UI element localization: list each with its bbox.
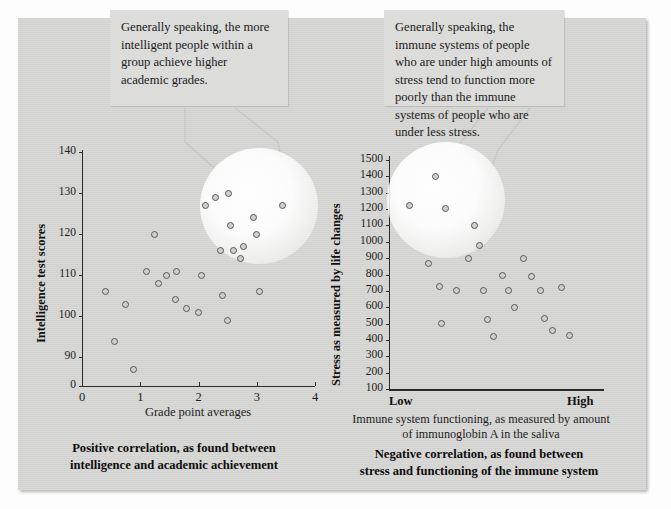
- left-chart-x-axis-label: Grade point averages: [70, 405, 326, 420]
- right-chart-data-point: [499, 272, 506, 279]
- figure-page: Generally speaking, the more intelligent…: [0, 0, 671, 509]
- right-chart-y-tick-label: 400: [343, 332, 383, 344]
- right-chart-data-point: [453, 287, 460, 294]
- left-chart-y-tick-mark: [79, 193, 83, 194]
- left-chart-data-point: [111, 338, 118, 345]
- left-chart-data-point: [253, 231, 260, 238]
- right-chart-data-point: [541, 315, 548, 322]
- right-chart-data-point: [558, 284, 565, 291]
- left-chart-caption: Positive correlation, as found between i…: [58, 440, 290, 473]
- left-chart-data-point: [219, 292, 226, 299]
- left-chart-y-axis: [82, 150, 83, 387]
- right-chart-y-tick-mark: [386, 307, 390, 308]
- right-chart-y-tick-mark: [386, 389, 390, 390]
- right-chart-data-point: [436, 283, 443, 290]
- right-chart-x-axis: [389, 389, 604, 391]
- right-chart-y-axis-label: Stress as measured by life changes: [329, 146, 344, 386]
- right-chart-y-tick-mark: [386, 258, 390, 259]
- left-chart-data-point: [225, 190, 232, 197]
- left-chart-y-tick-label: 140: [40, 144, 76, 156]
- left-chart-y-tick-mark: [79, 316, 83, 317]
- right-chart-y-tick-mark: [386, 275, 390, 276]
- left-chart-data-point: [122, 301, 129, 308]
- right-chart-y-tick-label: 600: [343, 299, 383, 311]
- right-chart-data-point: [490, 333, 497, 340]
- left-chart-data-point: [172, 296, 179, 303]
- left-chart-data-point: [224, 317, 231, 324]
- right-chart-data-point: [465, 255, 472, 262]
- right-chart-data-point: [528, 273, 535, 280]
- right-chart-y-tick-mark: [386, 340, 390, 341]
- right-chart-y-tick-label: 500: [343, 316, 383, 328]
- left-chart-data-point: [151, 231, 158, 238]
- right-chart-y-tick-mark: [386, 373, 390, 374]
- left-chart-data-point: [217, 247, 224, 254]
- right-chart-y-tick-mark: [386, 176, 390, 177]
- right-chart-data-point: [511, 304, 518, 311]
- left-chart-data-point: [198, 272, 205, 279]
- left-chart-data-point: [143, 268, 150, 275]
- callout-right: Generally speaking, the immune systems o…: [384, 10, 564, 106]
- left-chart-x-axis: [82, 386, 315, 387]
- left-chart-data-point: [130, 366, 137, 373]
- left-chart-data-point: [256, 288, 263, 295]
- left-chart-x-tick-label: 2: [187, 390, 211, 405]
- left-chart-data-point: [155, 280, 162, 287]
- right-chart-y-tick-mark: [386, 160, 390, 161]
- right-chart-data-point: [520, 255, 527, 262]
- right-chart-y-tick-label: 1500: [343, 152, 383, 164]
- left-chart-x-tick-label: 0: [70, 390, 94, 405]
- left-chart-y-tick-label: 100: [40, 308, 76, 320]
- left-chart-y-tick-label: 90: [40, 349, 76, 361]
- left-chart-y-tick-mark: [79, 234, 83, 235]
- right-chart-y-tick-mark: [386, 291, 390, 292]
- left-chart-data-point: [202, 202, 209, 209]
- left-chart-y-tick-label: 0: [40, 378, 76, 390]
- right-chart-x-tick-high: High: [567, 394, 593, 409]
- right-chart-y-tick-label: 100: [343, 381, 383, 393]
- left-chart-y-tick-label: 110: [40, 267, 76, 279]
- right-chart-y-tick-label: 700: [343, 283, 383, 295]
- left-chart-y-tick-mark: [79, 386, 83, 387]
- left-chart-x-tick-mark: [257, 382, 258, 386]
- left-chart-x-tick-mark: [199, 382, 200, 386]
- left-chart-y-tick-mark: [79, 275, 83, 276]
- left-chart-x-tick-mark: [140, 382, 141, 386]
- right-chart-data-point: [484, 316, 491, 323]
- right-chart-y-tick-label: 1400: [343, 168, 383, 180]
- left-chart-data-point: [102, 288, 109, 295]
- right-scatter-chart: Stress as measured by life changes 10020…: [315, 120, 625, 410]
- right-chart-data-point: [432, 173, 439, 180]
- right-chart-data-point: [566, 332, 573, 339]
- right-chart-y-tick-label: 1000: [343, 234, 383, 246]
- right-chart-data-point: [537, 287, 544, 294]
- left-chart-data-point: [183, 305, 190, 312]
- right-chart-x-tick-low: Low: [389, 394, 413, 409]
- right-chart-x-axis-label: Immune system functioning, as measured b…: [351, 412, 611, 442]
- right-chart-highlight: [387, 142, 505, 258]
- right-chart-y-tick-mark: [386, 356, 390, 357]
- right-chart-data-point: [438, 320, 445, 327]
- right-chart-y-tick-label: 1300: [343, 185, 383, 197]
- left-chart-data-point: [163, 272, 170, 279]
- left-chart-data-point: [230, 247, 237, 254]
- right-chart-data-point: [480, 287, 487, 294]
- right-chart-data-point: [442, 205, 449, 212]
- right-chart-y-tick-label: 300: [343, 348, 383, 360]
- right-chart-y-tick-label: 200: [343, 365, 383, 377]
- callout-left: Generally speaking, the more intelligent…: [110, 10, 288, 106]
- right-chart-y-tick-label: 1200: [343, 201, 383, 213]
- left-chart-data-point: [173, 268, 180, 275]
- left-chart-y-tick-label: 130: [40, 185, 76, 197]
- right-chart-y-tick-label: 800: [343, 267, 383, 279]
- left-chart-x-tick-label: 1: [128, 390, 152, 405]
- left-chart-y-tick-label: 120: [40, 226, 76, 238]
- right-chart-y-tick-mark: [386, 242, 390, 243]
- left-chart-data-point: [195, 309, 202, 316]
- right-chart-y-tick-mark: [386, 324, 390, 325]
- right-chart-y-tick-mark: [386, 225, 390, 226]
- right-chart-y-tick-label: 1100: [343, 217, 383, 229]
- left-chart-x-tick-label: 3: [245, 390, 269, 405]
- left-chart-y-tick-mark: [79, 152, 83, 153]
- right-chart-data-point: [476, 242, 483, 249]
